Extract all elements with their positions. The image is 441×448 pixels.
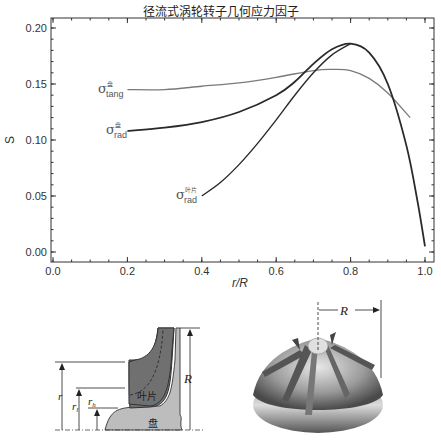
blade-region bbox=[129, 328, 174, 408]
rotor-cross-section: r rl rh R 叶片 盘 bbox=[55, 328, 205, 430]
rotor-illustration: R bbox=[253, 300, 383, 433]
label-rh: rh bbox=[88, 395, 96, 409]
x-tick-label: 0.0 bbox=[45, 265, 60, 277]
stress-factor-chart: 0.000.050.100.150.200.00.20.40.60.81.0Sr… bbox=[0, 0, 441, 290]
label-R: R bbox=[183, 371, 192, 386]
y-tick-label: 0.20 bbox=[26, 22, 47, 34]
x-tick-label: 0.4 bbox=[194, 265, 209, 277]
svg-text:盘: 盘 bbox=[107, 80, 113, 87]
x-tick-label: 0.8 bbox=[343, 265, 358, 277]
svg-text:叶片: 叶片 bbox=[185, 186, 197, 194]
rotor-label-R: R bbox=[339, 303, 348, 318]
svg-text:rad: rad bbox=[184, 195, 197, 205]
y-tick-label: 0.15 bbox=[26, 78, 47, 90]
y-tick-label: 0.00 bbox=[26, 246, 47, 258]
curve-rad-blade bbox=[202, 44, 351, 196]
label-r: r bbox=[58, 390, 63, 402]
disc-region bbox=[105, 328, 182, 430]
y-tick-label: 0.05 bbox=[26, 190, 47, 202]
curve-tang-disc bbox=[127, 69, 410, 117]
x-tick-label: 1.0 bbox=[417, 265, 432, 277]
x-axis-label: r/R bbox=[232, 276, 248, 290]
label-sigma-rad-blade: σrad叶片 bbox=[176, 186, 197, 205]
svg-text:盘: 盘 bbox=[115, 121, 121, 128]
label-sigma-rad-disc: σrad盘 bbox=[106, 121, 127, 140]
x-tick-label: 0.6 bbox=[269, 265, 284, 277]
svg-text:tang: tang bbox=[106, 89, 124, 99]
svg-text:rad: rad bbox=[114, 130, 127, 140]
x-tick-label: 0.2 bbox=[120, 265, 135, 277]
plot-frame bbox=[51, 18, 434, 262]
label-rl: rl bbox=[72, 400, 78, 414]
label-sigma-tang-disc: σtang盘 bbox=[98, 80, 124, 99]
y-tick-label: 0.10 bbox=[26, 134, 47, 146]
y-axis-label: S bbox=[3, 136, 17, 144]
curve-rad-disc bbox=[127, 44, 425, 247]
label-blade: 叶片 bbox=[137, 390, 157, 402]
label-disc: 盘 bbox=[148, 417, 158, 429]
